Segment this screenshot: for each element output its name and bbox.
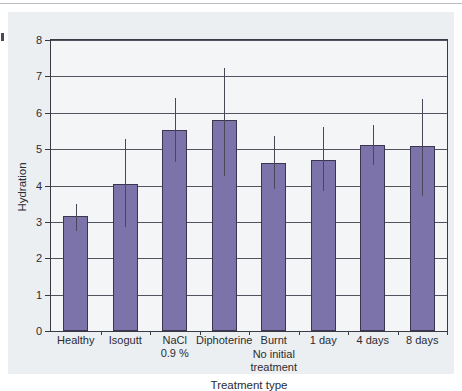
error-bar [274,136,275,188]
error-bar [373,125,374,165]
x-axis-category-label-line: Burnt [261,334,287,346]
gridline [51,40,447,41]
x-axis-category-label-line: Isogutt [109,334,142,346]
x-axis-category-label-line: 1 day [310,334,337,346]
top-divider-rule [0,3,462,4]
x-axis-tick [150,331,151,335]
y-axis-tick [45,40,51,41]
x-axis-category-label: Diphoterine [196,334,252,347]
x-axis-category-label: Burnt [261,334,287,347]
y-axis-tick-label: 1 [36,289,42,300]
x-axis-annotation: No initialtreatment [251,348,297,374]
gridline [51,186,447,187]
plot-inner: 012345678 [51,40,447,331]
error-bar [175,98,176,162]
x-axis-tick [348,331,349,335]
y-axis-tick-label: 3 [36,216,42,227]
x-axis-category-label: Healthy [57,334,94,347]
x-axis-title: Treatment type [211,379,288,391]
x-axis-category-label-line: Healthy [57,334,94,346]
chart-panel: Hydration 012345678 HealthyIsoguttNaCl0.… [8,12,454,374]
x-axis-category-label: 8 days [406,334,438,347]
page-edge-mark [1,33,4,41]
gridline [51,222,447,223]
error-bar [76,204,77,231]
x-axis-category-label-line: Diphoterine [196,334,252,346]
y-axis-tick [45,149,51,150]
y-axis-tick-label: 7 [36,71,42,82]
y-axis-title: Hydration [16,162,28,211]
plot-area: 012345678 [50,39,448,332]
error-bar [422,99,423,196]
y-axis-tick-label: 0 [36,326,42,337]
bar[interactable] [360,145,385,331]
x-axis-category-label-line: 4 days [357,334,389,346]
error-bar [323,127,324,191]
y-axis-tick-label: 5 [36,144,42,155]
error-bar [125,139,126,227]
error-bar [224,68,225,176]
x-axis-category-label-line: 0.9 % [161,347,189,360]
x-axis-category-label: 4 days [357,334,389,347]
x-axis-annotation-line: treatment [251,361,297,374]
gridline [51,149,447,150]
x-axis-category-label-line: NaCl [163,334,187,346]
y-axis-tick [45,186,51,187]
y-axis-tick [45,295,51,296]
x-axis-annotation-line: No initial [251,348,297,361]
x-axis-category-label: 1 day [310,334,337,347]
y-axis-tick-label: 2 [36,253,42,264]
x-axis-category-label: NaCl0.9 % [161,334,189,360]
gridline [51,76,447,77]
y-axis-tick [45,258,51,259]
y-axis-tick [45,113,51,114]
x-axis-tick [101,331,102,335]
x-axis-category-label-line: 8 days [406,334,438,346]
bar[interactable] [63,216,88,331]
y-axis-tick [45,331,51,332]
y-axis-tick [45,222,51,223]
x-axis-category-label: Isogutt [109,334,142,347]
gridline [51,295,447,296]
y-axis-tick-label: 6 [36,107,42,118]
x-axis-tick [299,331,300,335]
y-axis-tick [45,76,51,77]
x-axis-tick [447,331,448,335]
y-axis-tick-label: 8 [36,35,42,46]
gridline [51,258,447,259]
y-axis-tick-label: 4 [36,180,42,191]
x-axis-tick [398,331,399,335]
gridline [51,113,447,114]
